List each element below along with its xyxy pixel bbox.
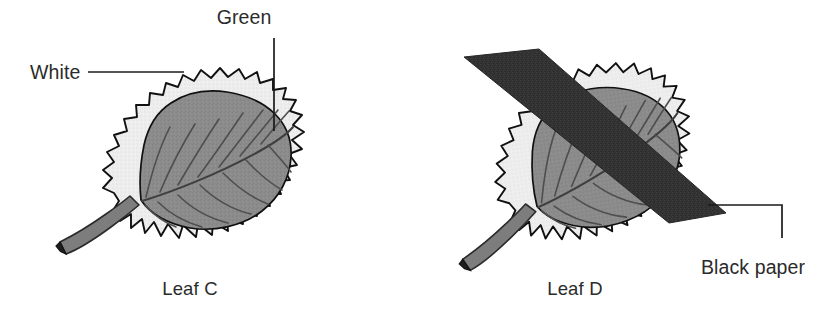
leaf-d-caption: Leaf D	[547, 278, 603, 299]
diagram-canvas: White Green Leaf C	[0, 0, 836, 319]
black-paper-label: Black paper	[701, 256, 805, 278]
leaf-c-petiole	[60, 196, 139, 254]
leaf-diagram-figure: White Green Leaf C	[0, 0, 836, 319]
panel-leaf-c: White Green Leaf C	[30, 6, 304, 299]
white-label: White	[30, 61, 80, 83]
leaf-c-caption: Leaf C	[162, 278, 218, 299]
leaf-c-green-blade	[140, 91, 291, 229]
panel-leaf-d: Black paper Leaf D	[435, 49, 806, 299]
green-label: Green	[217, 6, 272, 28]
leaf-d-petiole	[456, 203, 542, 271]
